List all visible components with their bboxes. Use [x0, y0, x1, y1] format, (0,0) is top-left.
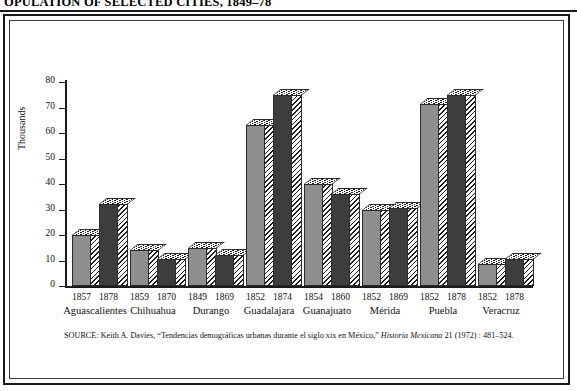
x-axis-line [65, 286, 533, 288]
bar[interactable] [273, 95, 292, 286]
bar[interactable] [447, 95, 466, 286]
bar-front-face [246, 125, 265, 286]
bar[interactable] [304, 184, 323, 286]
source-note: SOURCE: Keith A. Davies, “Tendencias dem… [64, 330, 524, 341]
bar-side-face [466, 95, 476, 286]
y-axis-tick-label: 0 [50, 279, 55, 289]
y-axis-tick: 20 [59, 235, 66, 236]
y-axis-tick-label: 80 [46, 75, 56, 85]
bar[interactable] [478, 264, 497, 286]
year-label: 1869 [208, 292, 242, 302]
y-axis-tick: 80 [59, 82, 66, 83]
y-axis-tick: 60 [59, 133, 66, 134]
bar[interactable] [99, 204, 118, 286]
y-axis-tick-label: 50 [46, 152, 56, 162]
y-axis-title: Thousands [16, 107, 27, 150]
bar-group [130, 82, 184, 286]
bar-front-face [188, 248, 207, 286]
bar-group [362, 82, 416, 286]
bar-front-face [304, 184, 323, 286]
bar-side-face [524, 259, 534, 286]
bar-side-face [234, 255, 244, 286]
year-label: 1878 [440, 292, 474, 302]
bar[interactable] [157, 259, 176, 286]
bar[interactable] [331, 194, 350, 286]
bar[interactable] [362, 210, 381, 287]
bar[interactable] [505, 259, 524, 286]
bar-front-face [273, 95, 292, 286]
y-axis-tick-label: 20 [46, 228, 56, 238]
bar-front-face [331, 194, 350, 286]
bar-front-face [215, 255, 234, 286]
bar-group [246, 82, 300, 286]
bar-group [420, 82, 474, 286]
bar-group [188, 82, 242, 286]
bar[interactable] [188, 248, 207, 286]
bar-front-face [99, 204, 118, 286]
bar[interactable] [246, 125, 265, 286]
source-text-part2: 21 (1972) : 481–524. [442, 331, 513, 340]
year-label: 1869 [382, 292, 416, 302]
source-text-part1: Keith A. Davies, “Tendencias demográfica… [99, 331, 381, 340]
year-label: 1878 [92, 292, 126, 302]
y-axis-tick-label: 40 [46, 177, 56, 187]
plot-area [66, 82, 531, 286]
bar-front-face [478, 264, 497, 286]
bar-front-face [130, 250, 149, 286]
year-label: 1860 [324, 292, 358, 302]
y-axis-tick-label: 70 [46, 101, 56, 111]
bar-side-face [350, 194, 360, 286]
bar-front-face [362, 210, 381, 287]
y-axis-tick: 40 [59, 184, 66, 185]
y-axis-tick: 50 [59, 159, 66, 160]
bar[interactable] [130, 250, 149, 286]
bar-group [72, 82, 126, 286]
bar-front-face [420, 104, 439, 286]
bar-group [304, 82, 358, 286]
bar-front-face [72, 235, 91, 286]
bar-side-face [118, 204, 128, 286]
bar-front-face [505, 259, 524, 286]
y-axis-tick-label: 30 [46, 203, 56, 213]
y-axis-tick-label: 60 [46, 126, 56, 136]
y-axis-tick: 30 [59, 210, 66, 211]
y-axis-tick: 0 [59, 286, 66, 287]
bar-side-face [408, 208, 418, 286]
figure-title: OPULATION OF SELECTED CITIES, 1849–78 [4, 0, 272, 10]
bar-front-face [389, 208, 408, 286]
bar[interactable] [389, 208, 408, 286]
bar-side-face [292, 95, 302, 286]
source-prefix: SOURCE: [64, 331, 99, 340]
title-rule [0, 10, 577, 12]
bar-front-face [447, 95, 466, 286]
year-label: 1874 [266, 292, 300, 302]
bar[interactable] [420, 104, 439, 286]
y-axis-tick: 10 [59, 261, 66, 262]
bar[interactable] [215, 255, 234, 286]
year-label: 1878 [498, 292, 532, 302]
bar-group [478, 82, 532, 286]
bar-side-face [176, 259, 186, 286]
source-journal-title: Historia Mexicana [381, 331, 443, 340]
bar[interactable] [72, 235, 91, 286]
y-axis-tick: 70 [59, 108, 66, 109]
y-axis-tick-label: 10 [46, 254, 56, 264]
bar-front-face [157, 259, 176, 286]
city-label: Veracruz [441, 305, 561, 316]
year-label: 1870 [150, 292, 184, 302]
